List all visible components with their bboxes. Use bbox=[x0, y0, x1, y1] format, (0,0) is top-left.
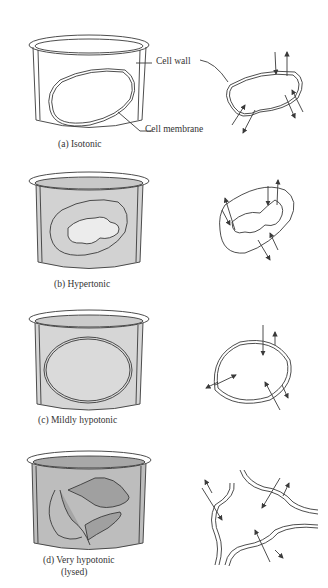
panel-a-cell-detail bbox=[200, 52, 303, 133]
panel-a-cell bbox=[49, 63, 152, 131]
panel-d-cell-detail bbox=[202, 470, 318, 566]
panel-c-cell bbox=[44, 337, 132, 403]
caption-isotonic: (a) Isotonic bbox=[58, 139, 102, 149]
caption-lysed: (lysed) bbox=[61, 567, 87, 577]
osmosis-diagram bbox=[0, 0, 328, 588]
caption-very-hypotonic: (d) Very hypotonic bbox=[43, 555, 115, 565]
caption-hypertonic: (b) Hypertonic bbox=[54, 279, 110, 289]
cell-membrane-label: Cell membrane bbox=[145, 124, 203, 134]
cell-wall-label: Cell wall bbox=[156, 56, 191, 66]
panel-c-cell-detail bbox=[206, 325, 291, 410]
panel-b-cell-detail bbox=[220, 180, 294, 260]
caption-mildly-hypotonic: (c) Mildly hypotonic bbox=[38, 415, 117, 425]
